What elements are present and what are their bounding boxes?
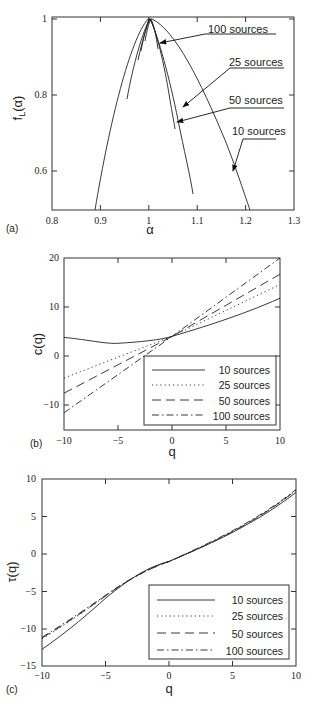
x-tick-label: 0 — [167, 670, 172, 681]
legend-c: 10 sources 25 sources 50 sources 100 sou… — [149, 585, 289, 659]
annotation-25-sources: 25 sources — [229, 56, 283, 68]
curves-a — [95, 19, 250, 210]
y-tick-label: 1 — [42, 13, 47, 24]
legend-label-50-sources: 50 sources — [232, 628, 283, 640]
y-tick-label: 0.8 — [35, 89, 48, 100]
annotations-a: 100 sources 25 sources 50 sources 10 sou… — [160, 23, 286, 171]
x-tick-label: 0.9 — [94, 215, 107, 226]
x-tick-labels-c: −10 −5 0 5 10 — [34, 670, 301, 681]
chart-a: 0.8 0.9 1 1.1 1.2 1.3 0.6 0.8 1 — [6, 13, 300, 237]
panel-label-a: (a) — [6, 223, 18, 234]
x-tick-label: 1.3 — [288, 215, 301, 226]
y-tick-labels-b: 20 10 0 −10 — [43, 252, 59, 410]
y-axis-label-b: c(q) — [30, 333, 45, 355]
legend-label-100-sources: 100 sources — [213, 410, 270, 422]
y-tick-label: −15 — [20, 660, 36, 671]
y-tick-label: 20 — [49, 252, 59, 263]
panel-label-c: (c) — [6, 684, 18, 695]
y-tick-labels-a: 0.6 0.8 1 — [35, 13, 48, 176]
y-tick-label: 10 — [49, 301, 59, 312]
x-ticks-a — [100, 17, 245, 210]
x-tick-label: −5 — [113, 435, 124, 446]
x-tick-label: −10 — [56, 435, 72, 446]
x-tick-label: 5 — [230, 670, 235, 681]
legend-label-10-sources: 10 sources — [219, 364, 270, 376]
y-tick-label: 10 — [26, 473, 36, 484]
legend-label-100-sources: 100 sources — [226, 645, 283, 657]
figure: 0.8 0.9 1 1.1 1.2 1.3 0.6 0.8 1 — [0, 0, 316, 710]
plot-frame-a — [52, 17, 294, 210]
x-tick-label: −10 — [34, 670, 50, 681]
y-tick-label: 0.6 — [35, 165, 48, 176]
x-tick-label: −5 — [100, 670, 111, 681]
x-axis-label-a: α — [146, 222, 154, 237]
annotation-50-sources: 50 sources — [229, 94, 283, 106]
y-tick-label: −5 — [25, 586, 36, 597]
legend-b: 10 sources 25 sources 50 sources 100 sou… — [144, 356, 276, 425]
x-tick-label: 10 — [275, 435, 285, 446]
chart-c: −10 −5 0 5 10 10 5 0 −5 −10 −15 10 sourc… — [4, 473, 301, 696]
x-axis-label-c: q — [165, 681, 172, 696]
x-tick-label: 0.8 — [46, 215, 59, 226]
y-tick-label: 0 — [54, 350, 59, 361]
chart-b: −10 −5 0 5 10 20 10 0 −10 10 sources — [30, 252, 285, 459]
y-tick-label: −10 — [20, 623, 36, 634]
x-tick-label: 1.2 — [239, 215, 252, 226]
legend-label-50-sources: 50 sources — [219, 395, 270, 407]
legend-label-25-sources: 25 sources — [219, 379, 270, 391]
x-axis-label-b: q — [168, 444, 175, 459]
annotation-100-sources: 100 sources — [208, 23, 268, 35]
x-tick-label: 5 — [224, 435, 229, 446]
y-tick-label: 0 — [31, 548, 36, 559]
legend-label-25-sources: 25 sources — [232, 610, 283, 622]
y-axis-label-a: fL(α) — [10, 96, 27, 121]
x-tick-labels-a: 0.8 0.9 1 1.1 1.2 1.3 — [46, 215, 301, 226]
legend-label-10-sources: 10 sources — [232, 594, 283, 606]
svg-text:fL(α): fL(α) — [10, 96, 27, 121]
curve-50-sources — [138, 19, 175, 129]
annotation-10-sources: 10 sources — [232, 125, 286, 137]
x-tick-label: 10 — [291, 670, 301, 681]
panel-label-b: (b) — [30, 438, 42, 449]
y-axis-label-c: τ(q) — [4, 561, 19, 582]
y-tick-label: −10 — [43, 399, 59, 410]
y-tick-label: 5 — [31, 511, 36, 522]
x-tick-label: 1.1 — [191, 215, 204, 226]
y-tick-labels-c: 10 5 0 −5 −10 −15 — [20, 473, 36, 671]
